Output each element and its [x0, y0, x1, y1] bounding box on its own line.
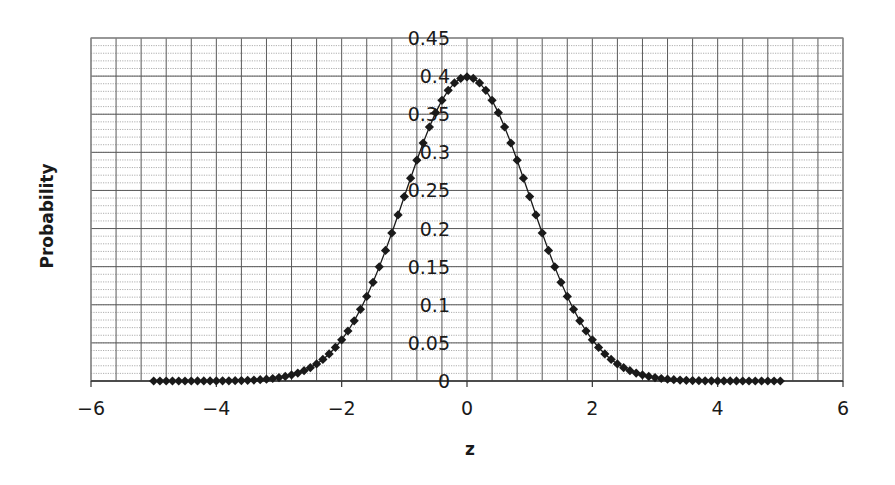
chart-canvas: 00.050.10.150.20.250.30.350.40.45 −6−4−2…	[0, 0, 895, 485]
data-point-marker	[519, 174, 528, 183]
data-point-marker	[368, 278, 377, 287]
x-tick-label: 4	[712, 397, 724, 419]
y-tick-label: 0.3	[420, 141, 450, 163]
y-tick-label: 0.45	[408, 27, 450, 49]
y-tick-label: 0.4	[420, 65, 450, 87]
data-point-marker	[550, 262, 559, 271]
x-tick-label: 2	[586, 397, 598, 419]
data-point-marker	[375, 262, 384, 271]
y-tick-label: 0.05	[408, 332, 450, 354]
data-point-marker	[544, 246, 553, 255]
data-point-marker	[500, 122, 509, 131]
data-point-marker	[494, 108, 503, 117]
y-axis-tick-labels: 00.050.10.150.20.250.30.350.40.45	[408, 27, 450, 392]
y-tick-label: 0.15	[408, 256, 450, 278]
y-tick-label: 0.1	[420, 294, 450, 316]
y-tick-label: 0	[438, 370, 450, 392]
x-axis-title: z	[465, 439, 475, 459]
y-tick-label: 0.25	[408, 179, 450, 201]
data-point-marker	[581, 326, 590, 335]
x-axis-tick-labels: −6−4−20246	[77, 397, 849, 419]
y-tick-label: 0.2	[420, 218, 450, 240]
data-point-marker	[575, 316, 584, 325]
x-tick-label: 0	[461, 397, 473, 419]
data-point-marker	[525, 192, 534, 201]
x-tick-label: −6	[77, 397, 105, 419]
data-point-marker	[393, 210, 402, 219]
y-axis-title: Probability	[37, 163, 57, 268]
x-tick-label: −4	[202, 397, 230, 419]
data-point-marker	[350, 316, 359, 325]
data-point-marker	[381, 246, 390, 255]
data-point-marker	[556, 278, 565, 287]
data-point-marker	[776, 376, 785, 385]
y-tick-label: 0.35	[408, 103, 450, 125]
x-tick-label: −2	[328, 397, 356, 419]
data-point-marker	[487, 96, 496, 105]
major-vertical-gridlines	[91, 38, 843, 381]
data-point-marker	[506, 138, 515, 147]
normal-distribution-chart: 00.050.10.150.20.250.30.350.40.45 −6−4−2…	[0, 0, 895, 485]
data-point-marker	[387, 228, 396, 237]
data-point-marker	[531, 210, 540, 219]
data-point-marker	[362, 292, 371, 301]
data-point-marker	[513, 156, 522, 165]
data-point-marker	[563, 292, 572, 301]
data-point-marker	[356, 305, 365, 314]
x-tick-label: 6	[837, 397, 849, 419]
